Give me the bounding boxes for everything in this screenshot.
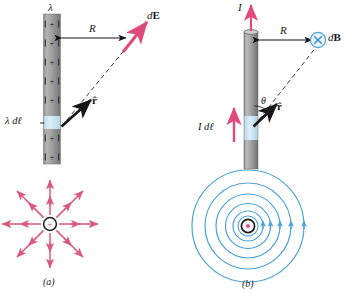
charged-rod: + + + + [44, 14, 61, 164]
svg-text:+: + [50, 19, 55, 29]
label-lambda: λ [48, 2, 53, 13]
svg-text:+: + [50, 133, 55, 143]
svg-text:+: + [50, 76, 55, 86]
starburst-center-charge: + [44, 218, 57, 231]
label-r-hat-b: r̂ [277, 101, 282, 112]
r-dashed-line [62, 42, 131, 126]
label-R-distance-b: R [280, 25, 287, 36]
label-R-distance: R [89, 23, 96, 34]
caption-b: (b) [242, 278, 254, 289]
label-lambda-dl: λ dℓ [5, 116, 22, 127]
current-carrying-wire [244, 30, 258, 169]
label-current-I: I [238, 2, 242, 13]
svg-text:+: + [50, 57, 55, 67]
label-lambda-dl-ell: ℓ [17, 115, 22, 126]
panel-a-graphics: + + + + [0, 0, 172, 293]
field-circle-arrowheads [263, 223, 304, 229]
r-hat-vector [62, 100, 92, 127]
svg-text:+: + [50, 38, 55, 48]
label-I-dl: I dℓ [198, 122, 214, 133]
panel-b-graphics [172, 0, 344, 293]
svg-text:+: + [50, 152, 55, 162]
panel-b-magnetic-field: I R dB I dℓ r̂ θ (b) [172, 0, 344, 293]
dB-field-symbol [310, 32, 325, 47]
dE-vector [123, 22, 147, 52]
label-I-dl-prefix: I d [198, 121, 209, 132]
label-dB-vector: dB [328, 32, 341, 43]
label-dE-E: E [153, 9, 160, 21]
label-dE-vector: dE [147, 10, 160, 21]
caption-a: (a) [43, 276, 55, 287]
label-theta-angle: θ [261, 96, 266, 106]
panel-a-electric-field: + + + + [0, 0, 172, 293]
svg-text:+: + [50, 95, 55, 105]
label-r-hat-a: r̂ [92, 95, 97, 106]
label-lambda-dl-prefix: λ d [5, 115, 17, 126]
label-dB-B: B [334, 31, 341, 43]
label-I-dl-ell: ℓ [209, 121, 214, 132]
physics-figure: + + + + [0, 0, 344, 293]
field-center-wire-cross-section [241, 219, 254, 232]
r-dashed-line-b [254, 46, 317, 126]
svg-text:+: + [48, 220, 53, 229]
